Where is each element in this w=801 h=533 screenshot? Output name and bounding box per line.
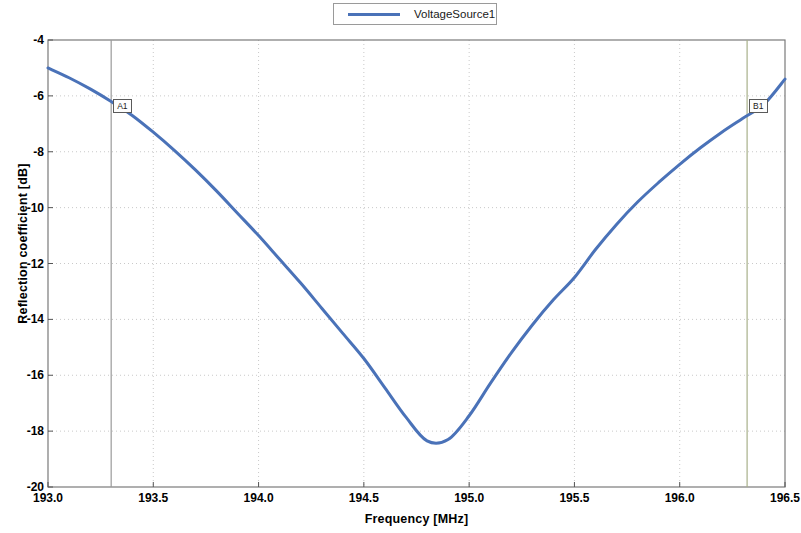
plot-area bbox=[0, 0, 801, 533]
chart-figure: VoltageSource1 Reflection coefficient [d… bbox=[0, 0, 801, 533]
data-series-line-0 bbox=[48, 68, 785, 443]
marker-label-b1[interactable]: B1 bbox=[749, 99, 767, 113]
marker-label-a1[interactable]: A1 bbox=[113, 99, 131, 113]
